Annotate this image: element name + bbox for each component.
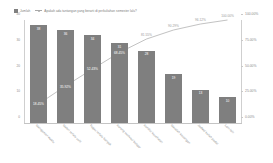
y-axis-tick-label: 30: [16, 38, 20, 42]
x-axis-category-label: Materi terlalu sulit: [61, 124, 81, 144]
cumulative-value-label: 18.45%: [33, 102, 44, 106]
x-axis-category-label: Manajemen waktu: [34, 124, 55, 145]
bar-value-label: 28: [145, 52, 149, 56]
legend-item-cumulative[interactable]: Apakah ada tantangan yang berarti di per…: [35, 9, 137, 13]
bar-3[interactable]: 34: [84, 35, 101, 123]
secondary-y-axis-ticks: 100.00%75.00%50.00%25.00%0.00%: [243, 14, 273, 119]
secondary-y-axis-tick-label: 50.00%: [245, 64, 257, 68]
bar-7[interactable]: 13: [192, 90, 209, 123]
secondary-y-axis-line: [241, 20, 242, 123]
bar-value-label: 31: [118, 45, 122, 49]
y-axis-tick-label: 40: [16, 12, 20, 16]
cumulative-value-label: 81.55%: [141, 33, 152, 37]
cumulative-value-label: 52.43%: [87, 67, 98, 71]
cumulative-value-label: 100.00%: [221, 14, 234, 18]
bar-value-label: 38: [37, 27, 41, 31]
y-axis-ticks: 403020100: [0, 14, 22, 119]
bar-value-label: 10: [226, 99, 230, 103]
bar-value-label: 36: [64, 32, 68, 36]
secondary-y-axis-tick-label: 100.00%: [245, 12, 258, 16]
plot-area: 383634312819131018.45%35.92%52.43%68.45%…: [25, 20, 241, 123]
y-axis-tick-label: 10: [16, 89, 20, 93]
pareto-chart: Jumlah Apakah ada tantangan yang berarti…: [0, 0, 273, 163]
cumulative-value-label: 35.92%: [60, 85, 71, 89]
axis-tick-mark: [241, 91, 243, 92]
bar-6[interactable]: 19: [165, 74, 182, 123]
x-axis-category-label: Tugas terlalu banyak: [88, 124, 111, 147]
axis-tick-mark: [241, 117, 243, 118]
cumulative-value-label: 90.29%: [168, 24, 179, 28]
axis-tick-mark: [241, 14, 243, 15]
legend-label-jumlah: Jumlah: [20, 9, 30, 13]
x-axis-category-label: Lain-lain: [223, 124, 234, 135]
x-axis-labels: Manajemen waktuMateri terlalu sulitTugas…: [25, 124, 241, 163]
y-axis-tick-label: 0: [18, 115, 20, 119]
bar-value-label: 13: [199, 91, 203, 95]
x-axis-category-label: Masalah keuangan: [169, 124, 190, 145]
x-axis-category-label: Kondisi kesehatan: [142, 124, 163, 145]
cumulative-value-label: 96.12%: [195, 18, 206, 22]
secondary-y-axis-tick-label: 0.00%: [245, 115, 255, 119]
legend-label-cumulative: Apakah ada tantangan yang berarti di per…: [44, 9, 137, 13]
secondary-y-axis-tick-label: 25.00%: [245, 89, 257, 93]
bar-value-label: 34: [91, 37, 95, 41]
x-axis-category-label: Jadwal kuliah padat: [196, 124, 218, 146]
x-axis-category-label: Kurang motivasi belajar: [115, 124, 141, 150]
cumulative-value-label: 68.45%: [114, 51, 125, 55]
secondary-y-axis-tick-label: 75.00%: [245, 38, 257, 42]
line-marker-icon: [35, 10, 42, 11]
bar-5[interactable]: 28: [138, 51, 155, 123]
axis-tick-mark: [241, 66, 243, 67]
y-axis-tick-label: 20: [16, 64, 20, 68]
bar-value-label: 19: [172, 76, 176, 80]
bar-8[interactable]: 10: [219, 97, 236, 123]
bar-4[interactable]: 31: [111, 43, 128, 123]
chart-legend: Jumlah Apakah ada tantangan yang berarti…: [14, 6, 137, 15]
axis-tick-mark: [241, 40, 243, 41]
bar-2[interactable]: 36: [57, 30, 74, 123]
bar-1[interactable]: 38: [30, 25, 47, 123]
